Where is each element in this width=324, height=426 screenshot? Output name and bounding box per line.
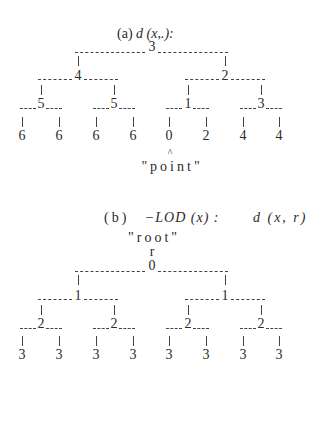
- pointer-caret-icon: ^: [168, 146, 173, 160]
- edge-line: [169, 336, 170, 346]
- tree-leaf: 3: [203, 348, 210, 362]
- branch-line: [20, 328, 36, 329]
- branch-line: [119, 108, 135, 109]
- tree-leaf: 6: [19, 129, 26, 143]
- branch-line: [240, 328, 256, 329]
- branch-line: [166, 328, 182, 329]
- edge-line: [96, 336, 97, 346]
- edge-line: [206, 117, 207, 127]
- branch-line: [185, 299, 219, 300]
- tree-node: 2: [222, 69, 229, 83]
- tree-leaf: 3: [19, 348, 26, 362]
- tree-node: 2: [111, 317, 118, 331]
- branch-line: [93, 328, 109, 329]
- edge-line: [41, 305, 42, 315]
- edge-line: [22, 117, 23, 127]
- branch-line: [38, 299, 72, 300]
- caption-rhs: d (x, r): [253, 210, 308, 225]
- tree-leaf: 3: [93, 348, 100, 362]
- tree-leaf: 4: [276, 129, 283, 143]
- tree-node: 5: [38, 97, 45, 111]
- branch-line: [231, 79, 265, 80]
- edge-line: [279, 336, 280, 346]
- edge-line: [133, 336, 134, 346]
- branch-line: [240, 108, 256, 109]
- branch-line: [75, 271, 145, 272]
- branch-line: [185, 79, 219, 80]
- tree-leaf: 6: [93, 129, 100, 143]
- edge-line: [59, 117, 60, 127]
- tree-leaf: 3: [276, 348, 283, 362]
- branch-line: [158, 52, 228, 53]
- tree-node: 2: [185, 317, 192, 331]
- edge-line: [114, 85, 115, 95]
- edge-line: [261, 305, 262, 315]
- branch-line: [231, 299, 265, 300]
- branch-line: [193, 108, 209, 109]
- edge-line: [78, 56, 79, 66]
- edge-line: [59, 336, 60, 346]
- edge-line: [22, 336, 23, 346]
- branch-line: [46, 328, 62, 329]
- tree-node-root: 3: [149, 40, 156, 54]
- tree-leaf: 6: [56, 129, 63, 143]
- tree-leaf: 2: [203, 129, 210, 143]
- edge-line: [41, 85, 42, 95]
- tree-node: 1: [185, 97, 192, 111]
- branch-line: [266, 108, 282, 109]
- tree-node: 2: [258, 317, 265, 331]
- caption-prefix: (a): [117, 26, 133, 41]
- tree-node: 1: [75, 289, 82, 303]
- branch-line: [193, 328, 209, 329]
- branch-line: [93, 108, 109, 109]
- tree-leaf: 3: [130, 348, 137, 362]
- branch-line: [158, 271, 228, 272]
- tree-leaf: 0: [166, 129, 173, 143]
- edge-line: [78, 275, 79, 285]
- caption-prefix: (b): [104, 210, 129, 225]
- edge-line: [188, 305, 189, 315]
- tree-leaf: 6: [130, 129, 137, 143]
- branch-line: [166, 108, 182, 109]
- branch-line: [84, 299, 118, 300]
- edge-line: [188, 85, 189, 95]
- tree-leaf: 3: [240, 348, 247, 362]
- tree-node: 1: [222, 289, 229, 303]
- edge-line: [96, 117, 97, 127]
- tree-node: 3: [258, 97, 265, 111]
- edge-line: [261, 85, 262, 95]
- edge-line: [114, 305, 115, 315]
- edge-line: [225, 275, 226, 285]
- tree-leaf: 4: [240, 129, 247, 143]
- tree-node: 5: [111, 97, 118, 111]
- tree-node: 2: [38, 317, 45, 331]
- edge-line: [133, 117, 134, 127]
- branch-line: [75, 52, 145, 53]
- tree-leaf: 3: [56, 348, 63, 362]
- tree-leaf: 3: [166, 348, 173, 362]
- point-label: "point": [141, 160, 202, 174]
- branch-line: [266, 328, 282, 329]
- branch-line: [20, 108, 36, 109]
- edge-line: [225, 56, 226, 66]
- branch-line: [84, 79, 118, 80]
- caption-math: −LOD (x) :: [145, 210, 220, 225]
- edge-line: [206, 336, 207, 346]
- branch-line: [38, 79, 72, 80]
- tree-node: 4: [75, 69, 82, 83]
- figure-a-caption: (a) d (x,.):: [117, 26, 174, 42]
- edge-line: [243, 117, 244, 127]
- edge-line: [279, 117, 280, 127]
- branch-line: [119, 328, 135, 329]
- root-label: "root": [128, 231, 180, 245]
- figure-b-caption: (b) −LOD (x) : d (x, r): [104, 210, 307, 226]
- branch-line: [46, 108, 62, 109]
- tree-node-root: 0: [149, 259, 156, 273]
- root-symbol: r: [150, 245, 155, 259]
- edge-line: [169, 117, 170, 127]
- edge-line: [243, 336, 244, 346]
